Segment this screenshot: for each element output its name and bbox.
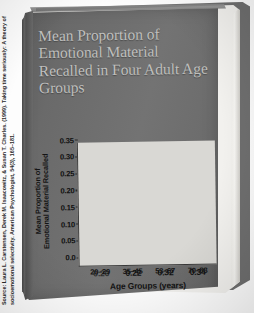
y-axis: 0.00.050.100.150.200.250.300.35 [49,143,79,267]
y-axis-tick-label: 0.35 [60,136,74,145]
y-axis-tick-label: 0.25 [60,169,74,178]
y-axis-tick-label: 0.30 [60,153,74,162]
bar-chart: Mean Proportion of Emotional Material Re… [39,139,217,294]
y-axis-tick-label: 0.15 [61,203,75,212]
photo-canvas: Source: Laura L. Carstensen, Derek M. Is… [0,0,254,313]
x-axis-title: Age Groups (years) [79,280,217,292]
y-axis-tick-label: 0.0 [65,253,75,262]
y-axis-tick-label: 0.05 [61,236,75,245]
cover-contents: Mean Proportion of Emotional Material Re… [20,7,220,302]
source-citation: Source: Laura L. Carstensen, Derek M. Is… [0,0,20,313]
x-axis-tick-label: 35–45 [121,267,144,279]
x-axis-tick-label: 53–67 [153,266,176,278]
x-axis-tick-labels: 20–2935–4553–6770–83 [80,266,217,280]
x-axis-tick-label: 20–29 [88,267,111,279]
y-axis-tick-label: 0.20 [60,186,74,195]
bar-series: 0.200.220.320.34 [79,141,216,266]
plot-area: 0.200.220.320.34 [77,141,217,267]
y-axis-tick-label: 0.10 [61,220,75,229]
source-citation-text: Source: Laura L. Carstensen, Derek M. Is… [0,5,16,305]
book-cover-photo: Mean Proportion of Emotional Material Re… [22,2,250,302]
page-title: Mean Proportion of Emotional Material Re… [38,25,211,97]
x-axis-tick-label: 70–83 [186,266,209,278]
book-fore-edge [231,7,240,291]
